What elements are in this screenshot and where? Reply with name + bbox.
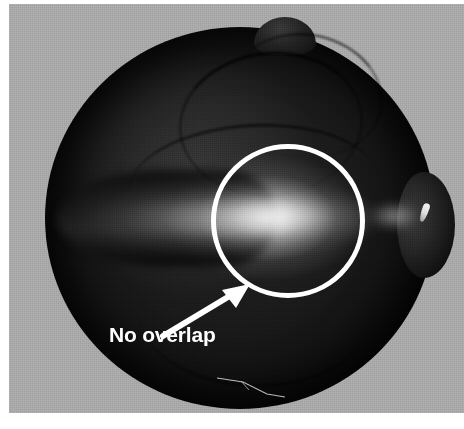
top-nodule — [254, 17, 316, 55]
right-lobe — [397, 172, 455, 278]
figure-root: No overlap — [0, 0, 464, 429]
annotation-label[interactable]: No overlap — [109, 323, 216, 347]
highlight-circle-annotation[interactable] — [211, 144, 365, 298]
